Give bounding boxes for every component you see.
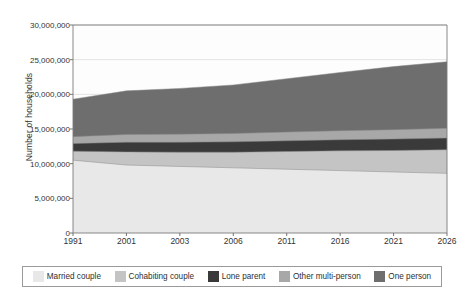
x-axis-tick-label: 2026: [438, 236, 457, 246]
x-axis-tick-label: 2011: [278, 236, 296, 246]
legend-item[interactable]: Other multi-person: [279, 271, 361, 282]
x-axis-tick-label: 2006: [224, 236, 243, 246]
x-axis-tick-label: 2001: [117, 236, 136, 246]
legend-swatch: [208, 271, 219, 282]
legend-swatch: [374, 271, 385, 282]
legend-item[interactable]: Married couple: [33, 271, 101, 282]
x-axis-tick-label: 2021: [384, 236, 403, 246]
legend-item[interactable]: Lone parent: [208, 271, 266, 282]
stacked-area-chart: Number of households 05,000,00010,000,00…: [0, 0, 466, 295]
plot-area: [0, 0, 466, 295]
x-axis-tick-label: 1991: [64, 236, 83, 246]
legend-label: Cohabiting couple: [129, 272, 195, 281]
legend-swatch: [33, 271, 44, 282]
legend-swatch: [279, 271, 290, 282]
legend-label: Married couple: [47, 272, 101, 281]
legend-label: One person: [388, 272, 431, 281]
legend-swatch: [115, 271, 126, 282]
legend-item[interactable]: One person: [374, 271, 431, 282]
legend-label: Lone parent: [222, 272, 266, 281]
x-axis-tick-label: 2016: [331, 236, 350, 246]
x-axis-tick-label: 2003: [170, 236, 189, 246]
chart-legend: Married coupleCohabiting coupleLone pare…: [22, 266, 442, 287]
legend-item[interactable]: Cohabiting couple: [115, 271, 195, 282]
legend-label: Other multi-person: [293, 272, 361, 281]
